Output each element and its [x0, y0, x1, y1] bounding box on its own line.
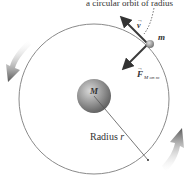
motion-arrow-left-icon: [6, 40, 31, 82]
svg-text:→: →: [137, 17, 143, 23]
orbit-diagram: M Radius r m v → F → M on m a circular o…: [0, 0, 192, 176]
radius-label: Radius r: [90, 131, 124, 142]
caption-leader: [144, 8, 154, 34]
radius-line: [94, 96, 148, 160]
caption-fragment: a circular orbit of radius: [86, 0, 173, 8]
force-subscript: M on m: [143, 75, 160, 80]
motion-arrow-right-icon: [162, 128, 184, 172]
force-vector: [126, 44, 148, 66]
orbiting-mass-label: m: [158, 32, 165, 42]
svg-text:→: →: [137, 65, 143, 71]
central-mass-label: M: [89, 86, 99, 96]
orbiting-mass-sphere: [146, 40, 154, 48]
